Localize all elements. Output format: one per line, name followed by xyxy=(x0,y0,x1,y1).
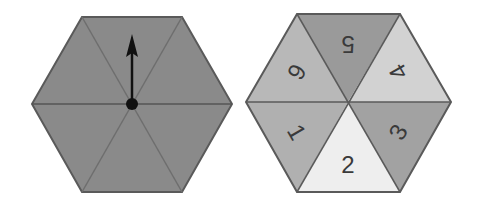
sector-label-2: 2 xyxy=(341,151,354,178)
number-hexagon: 5 4 3 2 1 6 xyxy=(246,14,451,192)
pivot-dot xyxy=(126,98,138,110)
figure-canvas: 5 4 3 2 1 6 xyxy=(0,0,483,218)
sector-label-5: 5 xyxy=(341,31,354,58)
spinner-hexagon xyxy=(32,17,232,192)
